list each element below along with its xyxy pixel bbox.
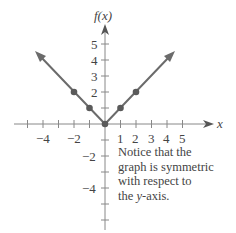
y-tick-label: 4 [91,53,98,68]
x-axis-label: x [216,116,223,131]
y-axis-label: f(x) [94,8,112,23]
annotation-line: Notice that the [118,145,236,160]
y-tick-label: 5 [91,37,98,52]
x-tick-label: 4 [163,131,170,146]
y-tick-label: 3 [91,69,98,84]
y-tick-label: −4 [82,181,96,196]
x-tick-label: 1 [117,131,124,146]
y-tick-label: −2 [82,149,96,164]
x-tick-label: 2 [132,131,139,146]
symmetry-annotation: Notice that the graph is symmetric with … [118,145,236,203]
annotation-line: graph is symmetric [118,160,236,175]
x-axis [14,120,214,128]
annotation-text: -axis. [142,189,169,203]
annotation-line: with respect to [118,174,236,189]
x-tick-label: 3 [148,131,155,146]
x-tick-label: −2 [67,131,81,146]
x-tick-label: −4 [36,131,50,146]
x-tick-label: 5 [179,131,186,146]
annotation-line: the y-axis. [118,189,236,204]
annotation-text: the [118,189,136,203]
y-tick-label: 2 [91,85,98,100]
